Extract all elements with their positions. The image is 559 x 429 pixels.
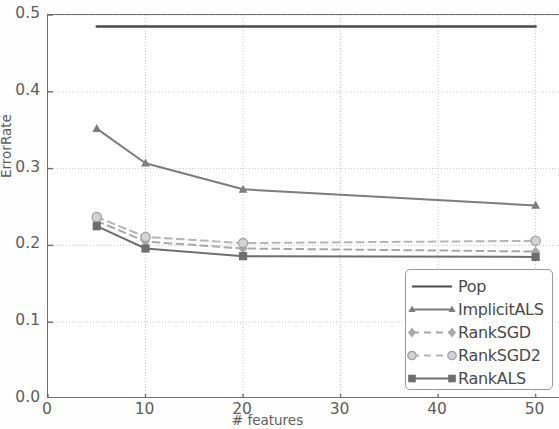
chart-legend: Pop ImplicitALS RankSGD RankSGD2 RankALS — [405, 269, 553, 390]
legend-label-ranksgd2: RankSGD2 — [458, 346, 541, 365]
y-axis-tick-label: 0.1 — [0, 311, 40, 329]
legend-swatch-ranksgd2 — [406, 344, 458, 367]
legend-swatch-ranksgd — [406, 321, 458, 344]
legend-swatch-rankals — [406, 367, 458, 390]
legend-swatch-pop — [406, 275, 458, 298]
y-axis-tick-label: 0.5 — [0, 4, 40, 22]
y-axis-tick-label: 0.4 — [0, 81, 40, 99]
legend-item-implicitals[interactable]: ImplicitALS — [406, 298, 552, 321]
legend-label-implicitals: ImplicitALS — [458, 300, 544, 319]
legend-label-pop: Pop — [458, 277, 486, 296]
legend-item-rankals[interactable]: RankALS — [406, 367, 552, 390]
y-axis-tick-label: 0.3 — [0, 158, 40, 176]
x-axis-title: # features — [0, 412, 559, 428]
legend-item-ranksgd2[interactable]: RankSGD2 — [406, 344, 552, 367]
legend-item-ranksgd[interactable]: RankSGD — [406, 321, 552, 344]
error-rate-line-chart: ErrorRate 0.00.10.20.30.40.5 01020304050… — [0, 0, 559, 429]
legend-label-rankals: RankALS — [458, 369, 526, 388]
y-axis-tick-label: 0.0 — [0, 388, 40, 406]
y-axis-tick-label: 0.2 — [0, 234, 40, 252]
legend-label-ranksgd: RankSGD — [458, 323, 531, 342]
legend-item-pop[interactable]: Pop — [406, 275, 552, 298]
x-axis-title-text: # features — [232, 412, 303, 428]
legend-swatch-implicitals — [406, 298, 458, 321]
